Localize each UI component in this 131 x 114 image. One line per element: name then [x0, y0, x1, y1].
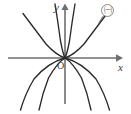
curve-steep-up-right [65, 4, 75, 58]
y-axis-label: y [54, 2, 59, 13]
curve-inner-down-right [65, 58, 91, 110]
origin-label: O [57, 61, 64, 71]
circled-marker-label: ㈠ [101, 4, 114, 17]
figure-canvas [0, 0, 131, 114]
x-axis-label: x [118, 62, 123, 73]
math-figure: y x O ㈠ [0, 0, 131, 114]
curve-outer-down-right [65, 58, 110, 110]
y-axis-arrowhead [61, 4, 68, 11]
curve-wide-up-left [23, 14, 65, 59]
